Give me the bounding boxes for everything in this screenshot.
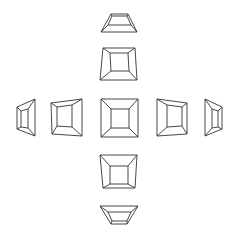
background: [0, 0, 242, 235]
frustum-perspective-diagram: [0, 0, 242, 235]
